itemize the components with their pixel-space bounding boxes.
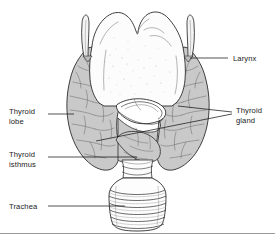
label-thyroid-gland: Thyroid gland	[236, 106, 262, 125]
label-thyroid-isthmus-line2: isthmus	[9, 160, 36, 170]
label-trachea-text: Trachea	[9, 202, 37, 211]
label-thyroid-lobe-line1: Thyroid	[9, 107, 35, 116]
label-thyroid-gland-line2: gland	[236, 116, 262, 126]
label-trachea: Trachea	[9, 202, 37, 212]
label-thyroid-gland-line1: Thyroid	[236, 106, 262, 115]
label-larynx: Larynx	[233, 54, 256, 64]
trachea-structure	[109, 160, 166, 231]
label-thyroid-isthmus: Thyroid isthmus	[9, 150, 36, 169]
thyroid-cartilage-shape	[90, 12, 186, 106]
figure-bottom-rule	[0, 233, 275, 234]
anatomy-illustration	[0, 0, 275, 234]
label-larynx-text: Larynx	[233, 54, 256, 63]
larynx-structure	[82, 12, 195, 106]
label-thyroid-lobe: Thyroid lobe	[9, 107, 35, 126]
label-thyroid-lobe-line2: lobe	[9, 117, 35, 127]
label-thyroid-isthmus-line1: Thyroid	[9, 150, 35, 159]
thyroid-anatomy-figure: Thyroid lobe Thyroid isthmus Trachea Lar…	[0, 0, 275, 234]
